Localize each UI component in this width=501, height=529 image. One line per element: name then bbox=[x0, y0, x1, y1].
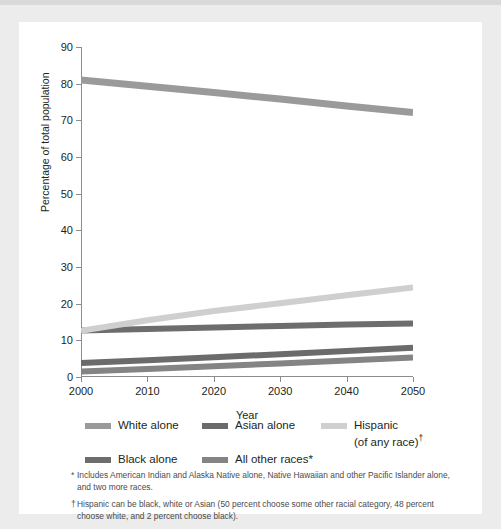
footnote-asterisk-marker: * bbox=[71, 470, 74, 482]
x-tick-label: 2010 bbox=[135, 385, 159, 397]
legend-item-all-other-races[interactable]: All other races* bbox=[202, 452, 321, 467]
footnote-asterisk-text: Includes American Indian and Alaska Nati… bbox=[77, 470, 459, 494]
legend-item-white-alone[interactable]: White alone bbox=[85, 418, 202, 433]
x-tick-mark bbox=[413, 377, 414, 382]
legend-all-other-races-asterisk: * bbox=[309, 453, 313, 465]
footnote-asterisk: * Includes American Indian and Alaska Na… bbox=[71, 470, 459, 494]
legend-label-asian-alone: Asian alone bbox=[235, 418, 295, 433]
legend-swatch-hispanic bbox=[321, 423, 347, 429]
series-line-white-alone bbox=[81, 80, 413, 113]
y-tick-label: 40 bbox=[61, 224, 73, 236]
legend-swatch-white-alone bbox=[85, 423, 111, 429]
y-tick-label: 20 bbox=[61, 298, 73, 310]
chart-legend: White alone Asian alone Hispanic (of any… bbox=[85, 418, 465, 470]
figure-page: Percentage of total population 010203040… bbox=[0, 0, 501, 529]
x-tick-mark bbox=[147, 377, 148, 382]
series-lines bbox=[81, 47, 413, 377]
x-tick-mark bbox=[347, 377, 348, 382]
x-tick-label: 2040 bbox=[334, 385, 358, 397]
y-tick-label: 60 bbox=[61, 151, 73, 163]
x-tick-label: 2020 bbox=[202, 385, 226, 397]
legend-row: Black alone All other races* bbox=[85, 452, 465, 467]
legend-label-black-alone: Black alone bbox=[118, 452, 177, 467]
legend-swatch-asian-alone bbox=[202, 423, 228, 429]
legend-row: White alone Asian alone Hispanic (of any… bbox=[85, 418, 465, 449]
legend-item-hispanic[interactable]: Hispanic (of any race)† bbox=[321, 418, 451, 449]
legend-label-white-alone: White alone bbox=[118, 418, 179, 433]
x-tick-mark bbox=[81, 377, 82, 382]
legend-hispanic-dagger: † bbox=[419, 433, 424, 443]
y-tick-label: 80 bbox=[61, 78, 73, 90]
legend-label-all-other-races-text: All other races bbox=[235, 453, 309, 465]
plot-area: 0102030405060708090200020102020203020402… bbox=[81, 47, 413, 377]
legend-label-hispanic: Hispanic (of any race)† bbox=[354, 418, 423, 449]
footnote-dagger: † Hispanic can be black, white or Asian … bbox=[71, 499, 459, 523]
y-axis-title: Percentage of total population bbox=[39, 72, 51, 212]
footnote-dagger-marker: † bbox=[71, 499, 76, 511]
x-tick-label: 2030 bbox=[268, 385, 292, 397]
chart-figure: Percentage of total population 010203040… bbox=[19, 22, 482, 514]
legend-label-all-other-races: All other races* bbox=[235, 452, 313, 467]
legend-item-asian-alone[interactable]: Asian alone bbox=[202, 418, 321, 433]
footnote-dagger-text: Hispanic can be black, white or Asian (5… bbox=[77, 499, 459, 523]
y-tick-label: 30 bbox=[61, 261, 73, 273]
x-tick-label: 2000 bbox=[69, 385, 93, 397]
y-tick-label: 90 bbox=[61, 41, 73, 53]
legend-swatch-all-other-races bbox=[202, 457, 228, 463]
y-tick-label: 50 bbox=[61, 188, 73, 200]
page-top-edge bbox=[0, 0, 501, 5]
y-tick-label: 0 bbox=[67, 371, 73, 383]
legend-label-hispanic-line1: Hispanic bbox=[354, 419, 398, 431]
y-tick-label: 10 bbox=[61, 334, 73, 346]
legend-label-hispanic-line2: (of any race) bbox=[354, 436, 419, 448]
x-tick-mark bbox=[214, 377, 215, 382]
x-tick-mark bbox=[280, 377, 281, 382]
footnotes: * Includes American Indian and Alaska Na… bbox=[71, 470, 459, 528]
y-tick-label: 70 bbox=[61, 114, 73, 126]
legend-item-black-alone[interactable]: Black alone bbox=[85, 452, 202, 467]
legend-swatch-black-alone bbox=[85, 457, 111, 463]
x-tick-label: 2050 bbox=[401, 385, 425, 397]
